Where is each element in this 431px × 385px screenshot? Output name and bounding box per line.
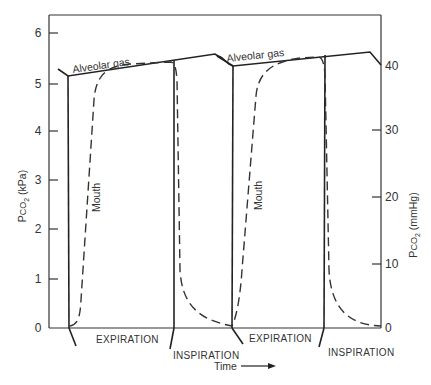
- svg-text:6: 6: [35, 26, 42, 40]
- svg-text:5: 5: [35, 77, 42, 91]
- mouth-label-1: Mouth: [90, 183, 102, 212]
- svg-text:Alveolar gas: Alveolar gas: [72, 55, 131, 75]
- svg-text:PCO2 (mmHg): PCO2 (mmHg): [407, 192, 421, 257]
- svg-text:Mouth: Mouth: [252, 181, 264, 210]
- left-axis-title: PCO2 (kPa): [16, 170, 30, 222]
- svg-text:0: 0: [35, 321, 42, 335]
- svg-text:INSPIRATION: INSPIRATION: [328, 347, 394, 358]
- alveolar-label-1: Alveolar gas: [72, 55, 131, 75]
- pco2-chart: 6 5 4 3 2 1 0 40 30 20 10 0 PCO2 (kPa) P…: [0, 0, 431, 385]
- svg-text:3: 3: [35, 173, 42, 187]
- alveolar-gas-series: [58, 52, 381, 349]
- phase-labels: EXPIRATION INSPIRATION EXPIRATION INSPIR…: [96, 333, 394, 361]
- svg-text:Time: Time: [214, 360, 237, 372]
- svg-text:Mouth: Mouth: [90, 183, 102, 212]
- svg-text:4: 4: [35, 124, 42, 138]
- mouth-label-2: Mouth: [252, 181, 264, 210]
- svg-text:PCO2 (kPa): PCO2 (kPa): [16, 170, 30, 222]
- svg-text:30: 30: [385, 123, 399, 137]
- svg-text:2: 2: [35, 222, 42, 236]
- left-axis-ticks: [49, 33, 58, 279]
- svg-text:40: 40: [385, 59, 399, 73]
- svg-text:10: 10: [385, 257, 399, 271]
- right-axis-tick-labels: 40 30 20 10 0: [385, 59, 399, 335]
- svg-text:EXPIRATION: EXPIRATION: [96, 334, 159, 345]
- left-axis-tick-labels: 6 5 4 3 2 1 0: [35, 26, 42, 335]
- svg-text:EXPIRATION: EXPIRATION: [249, 333, 312, 344]
- time-axis-label: Time: [214, 360, 276, 372]
- mouth-series: [70, 57, 381, 326]
- svg-text:0: 0: [385, 321, 392, 335]
- svg-text:1: 1: [35, 272, 42, 286]
- svg-text:20: 20: [385, 190, 399, 204]
- right-axis-title: PCO2 (mmHg): [407, 192, 421, 257]
- right-axis-ticks: [372, 130, 381, 264]
